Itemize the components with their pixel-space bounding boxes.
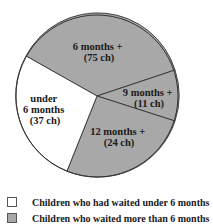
legend-item-more-than-6-months: Children who waited more than 6 months xyxy=(7,212,209,224)
legend-label: Children who had waited under 6 months xyxy=(32,197,209,208)
legend-item-under-6-months: Children who had waited under 6 months xyxy=(7,196,209,208)
pie-chart: 6 months + (75 ch) 9 months + (11 ch) 12… xyxy=(0,0,213,224)
legend-swatch-white xyxy=(7,197,17,207)
legend-swatch-gray xyxy=(7,213,17,223)
legend-label: Children who waited more than 6 months xyxy=(32,213,209,224)
